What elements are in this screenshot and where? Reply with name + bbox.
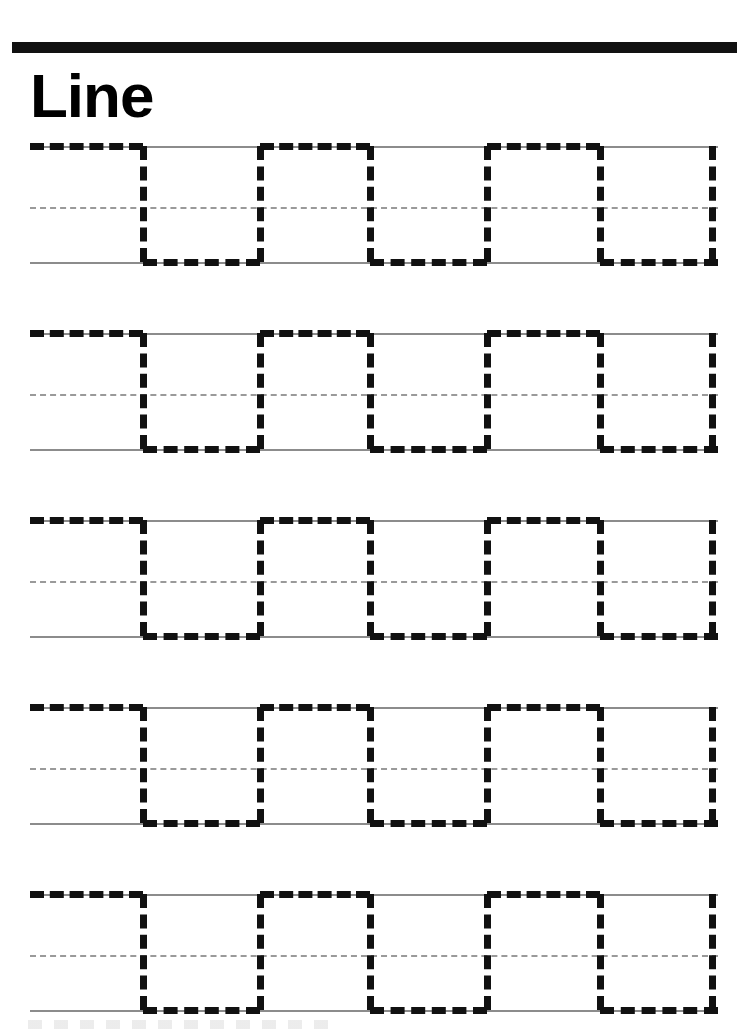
trace-stroke-bottom-3[interactable] [600,820,718,827]
page-title: Line [30,62,153,130]
trace-stroke-top-1[interactable] [30,143,143,150]
trace-stroke-vertical-1[interactable] [140,894,147,1010]
tracing-row-1[interactable] [0,131,749,255]
trace-stroke-vertical-1[interactable] [140,333,147,449]
tracing-row-4[interactable] [0,692,749,816]
trace-stroke-vertical-2[interactable] [257,894,264,1010]
trace-stroke-vertical-1[interactable] [140,146,147,262]
trace-stroke-top-3[interactable] [487,330,600,337]
trace-stroke-top-3[interactable] [487,517,600,524]
trace-stroke-vertical-6[interactable] [709,707,716,823]
trace-stroke-top-1[interactable] [30,891,143,898]
trace-stroke-bottom-2[interactable] [370,259,487,266]
guide-line-middle-dashed [30,394,718,396]
trace-stroke-vertical-6[interactable] [709,146,716,262]
trace-stroke-bottom-1[interactable] [143,1007,260,1014]
trace-stroke-vertical-2[interactable] [257,520,264,636]
trace-stroke-vertical-4[interactable] [484,894,491,1010]
worksheet-page: Line [0,0,749,1034]
trace-stroke-bottom-2[interactable] [370,820,487,827]
scan-footer-artifact [28,1020,328,1029]
trace-stroke-bottom-1[interactable] [143,259,260,266]
trace-stroke-bottom-3[interactable] [600,259,718,266]
trace-stroke-vertical-5[interactable] [597,146,604,262]
trace-stroke-top-1[interactable] [30,704,143,711]
trace-stroke-vertical-6[interactable] [709,520,716,636]
guide-line-middle-dashed [30,207,718,209]
trace-stroke-top-3[interactable] [487,143,600,150]
trace-stroke-bottom-1[interactable] [143,633,260,640]
header-rule-bar [12,42,737,53]
trace-stroke-top-2[interactable] [260,517,370,524]
guide-line-middle-dashed [30,955,718,957]
trace-stroke-bottom-3[interactable] [600,1007,718,1014]
trace-stroke-top-2[interactable] [260,704,370,711]
trace-stroke-vertical-2[interactable] [257,707,264,823]
trace-stroke-vertical-5[interactable] [597,333,604,449]
guide-line-middle-dashed [30,768,718,770]
trace-stroke-bottom-3[interactable] [600,633,718,640]
trace-stroke-vertical-6[interactable] [709,894,716,1010]
trace-stroke-top-1[interactable] [30,330,143,337]
trace-stroke-vertical-1[interactable] [140,707,147,823]
tracing-row-3[interactable] [0,505,749,629]
trace-stroke-vertical-3[interactable] [367,707,374,823]
trace-stroke-vertical-4[interactable] [484,520,491,636]
tracing-row-2[interactable] [0,318,749,442]
trace-stroke-bottom-1[interactable] [143,820,260,827]
trace-stroke-top-1[interactable] [30,517,143,524]
trace-stroke-vertical-4[interactable] [484,146,491,262]
trace-stroke-top-2[interactable] [260,143,370,150]
trace-stroke-top-3[interactable] [487,891,600,898]
trace-stroke-vertical-5[interactable] [597,707,604,823]
trace-stroke-vertical-4[interactable] [484,707,491,823]
trace-stroke-bottom-2[interactable] [370,1007,487,1014]
guide-line-middle-dashed [30,581,718,583]
trace-stroke-vertical-5[interactable] [597,520,604,636]
trace-stroke-top-2[interactable] [260,891,370,898]
trace-stroke-bottom-2[interactable] [370,633,487,640]
trace-stroke-bottom-3[interactable] [600,446,718,453]
trace-stroke-vertical-5[interactable] [597,894,604,1010]
trace-stroke-vertical-4[interactable] [484,333,491,449]
trace-stroke-vertical-1[interactable] [140,520,147,636]
trace-stroke-vertical-3[interactable] [367,333,374,449]
tracing-row-5[interactable] [0,879,749,1003]
trace-stroke-top-2[interactable] [260,330,370,337]
trace-stroke-bottom-2[interactable] [370,446,487,453]
trace-stroke-vertical-3[interactable] [367,520,374,636]
trace-stroke-vertical-6[interactable] [709,333,716,449]
trace-stroke-vertical-2[interactable] [257,333,264,449]
trace-stroke-bottom-1[interactable] [143,446,260,453]
trace-stroke-vertical-2[interactable] [257,146,264,262]
trace-stroke-top-3[interactable] [487,704,600,711]
trace-stroke-vertical-3[interactable] [367,146,374,262]
trace-stroke-vertical-3[interactable] [367,894,374,1010]
